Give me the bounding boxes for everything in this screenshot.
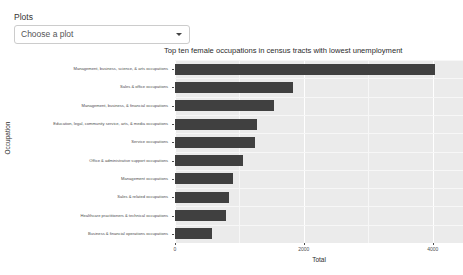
y-tick-label: Service occupations — [131, 139, 168, 145]
y-tick-mark — [172, 179, 174, 180]
bar — [175, 119, 257, 130]
gridline-horizontal — [175, 97, 463, 98]
bar — [175, 228, 212, 239]
gridline-horizontal — [175, 78, 463, 79]
bar — [175, 82, 293, 93]
y-tick-mark — [172, 142, 174, 143]
bar — [175, 210, 226, 221]
y-tick-label: Office & administrative support occupati… — [89, 158, 168, 164]
y-tick-mark — [172, 87, 174, 88]
y-tick-mark — [172, 69, 174, 70]
y-tick-mark — [172, 197, 174, 198]
y-tick-mark — [172, 124, 174, 125]
bar — [175, 137, 255, 148]
gridline-horizontal — [175, 115, 463, 116]
gridline-horizontal — [175, 152, 463, 153]
plot-select[interactable]: Choose a plot — [14, 25, 190, 44]
plot-container: Top ten female occupations in census tra… — [10, 46, 456, 271]
bar — [175, 64, 435, 75]
y-tick-label: Sales & related occupations — [117, 194, 168, 200]
gridline-horizontal — [175, 133, 463, 134]
gridline-horizontal — [175, 188, 463, 189]
y-tick-mark — [172, 161, 174, 162]
y-tick-mark — [172, 216, 174, 217]
plot-select-block: Plots Choose a plot — [14, 12, 190, 44]
y-tick-mark — [172, 106, 174, 107]
bar — [175, 173, 233, 184]
bar — [175, 192, 229, 203]
y-tick-label: Management, business, & financial occupa… — [82, 103, 168, 109]
x-axis-title: Total — [175, 256, 463, 264]
gridline-horizontal — [175, 225, 463, 226]
gridline-horizontal — [175, 206, 463, 207]
plot-panel — [175, 60, 463, 243]
bar — [175, 100, 274, 111]
plot-select-value: Choose a plot — [21, 29, 73, 40]
gridline-horizontal — [175, 170, 463, 171]
y-tick-label: Sales & office occupations — [120, 84, 168, 90]
y-tick-label: Healthcare practitioners & technical occ… — [81, 213, 168, 219]
x-tick-mark — [433, 243, 434, 245]
y-tick-label: Management occupations — [121, 176, 168, 182]
x-tick-label: 4000 — [427, 246, 438, 253]
bar — [175, 155, 243, 166]
y-tick-label: Management, business, science, & arts oc… — [74, 66, 168, 72]
y-tick-mark — [172, 234, 174, 235]
y-axis-ticks: Management, business, science, & arts oc… — [10, 60, 172, 243]
x-tick-label: 2000 — [298, 246, 309, 253]
x-tick-label: 0 — [174, 246, 177, 253]
gridline-horizontal — [175, 60, 463, 61]
plot-select-label: Plots — [14, 12, 190, 22]
chevron-down-icon — [176, 33, 182, 36]
y-tick-label: Business & financial operations occupati… — [88, 231, 168, 237]
x-tick-mark — [175, 243, 176, 245]
y-tick-label: Education, legal, community service, art… — [53, 121, 168, 127]
chart-title: Top ten female occupations in census tra… — [164, 46, 402, 55]
x-tick-mark — [304, 243, 305, 245]
